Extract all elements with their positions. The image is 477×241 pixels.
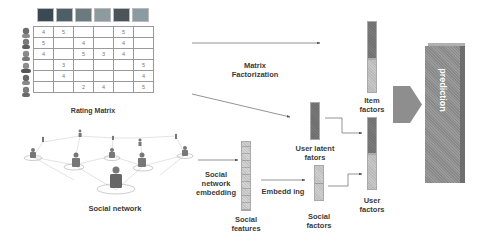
label-line: factors xyxy=(357,105,387,114)
prediction-block-side xyxy=(460,46,465,183)
label-line: fators xyxy=(290,153,340,162)
social-features-vector xyxy=(241,141,251,211)
arrow-matrix-to-user-latent xyxy=(192,94,290,117)
social-factors-label: Social factors xyxy=(299,212,339,230)
label-line: network xyxy=(186,179,246,188)
label-line: Factorization xyxy=(225,70,285,79)
item-factors-vector xyxy=(367,21,377,93)
social-factors-vector xyxy=(314,165,324,201)
embedding-label: Embedd ing xyxy=(258,187,308,196)
label-line: Item xyxy=(357,96,387,105)
label-line: Social xyxy=(226,215,266,224)
user-factors-vector xyxy=(367,117,377,190)
social-features-label: Social features xyxy=(226,215,266,233)
label-line: Social xyxy=(186,170,246,179)
item-factors-light-segment xyxy=(367,59,377,93)
item-factors-dark-segment xyxy=(367,21,377,59)
user-latent-factors-vector xyxy=(310,102,320,140)
label-line: User xyxy=(355,196,389,205)
user-factors-dark-segment xyxy=(367,117,377,154)
label-line: Social xyxy=(299,212,339,221)
arrow-user-latent-to-user-factors xyxy=(325,118,362,133)
item-factors-label: Item factors xyxy=(357,96,387,114)
label-line: factors xyxy=(299,221,339,230)
user-factors-label: User factors xyxy=(355,196,389,214)
label-line: User latent xyxy=(290,144,340,153)
user-latent-factors-label: User latent fators xyxy=(290,144,340,162)
label-line: embedding xyxy=(186,188,246,197)
prediction-block: prediction xyxy=(425,43,465,183)
prediction-label: prediction xyxy=(436,53,450,128)
arrow-social-factors-to-user-factors xyxy=(328,174,362,186)
label-line: features xyxy=(226,224,266,233)
prediction-arrow-shape xyxy=(393,86,422,123)
label-line: factors xyxy=(355,205,389,214)
social-network-embedding-label: Social network embedding xyxy=(186,170,246,197)
matrix-factorization-label: Matrix Factorization xyxy=(225,61,285,79)
user-factors-light-segment xyxy=(367,154,377,190)
label-line: Matrix xyxy=(225,61,285,70)
